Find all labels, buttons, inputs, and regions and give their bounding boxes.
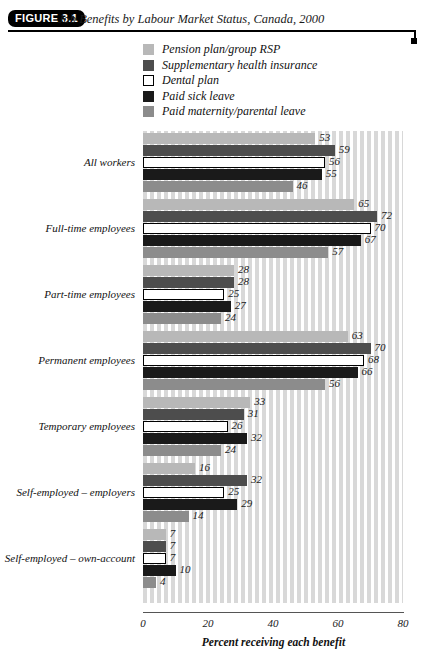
legend-item: Supplementary health insurance <box>143 58 317 74</box>
category-label: All workers <box>84 156 135 168</box>
x-axis-line <box>143 612 404 613</box>
x-tick-label: 40 <box>268 617 279 629</box>
bar-row: 65 <box>143 199 403 210</box>
bar-group: 3331263224 <box>143 397 403 457</box>
legend-swatch-icon <box>143 60 154 71</box>
bar <box>143 529 166 540</box>
header-rule <box>8 30 416 32</box>
bar-row: 26 <box>143 421 403 432</box>
bar <box>143 577 156 588</box>
bar-row: 59 <box>143 145 403 156</box>
x-tick-label: 0 <box>140 617 146 629</box>
bar-row: 28 <box>143 265 403 276</box>
bar-value-label: 46 <box>293 179 308 191</box>
legend-swatch-icon <box>143 91 154 102</box>
bar-value-label: 59 <box>335 143 350 155</box>
legend-item: Paid maternity/parental leave <box>143 104 317 120</box>
bar-value-label: 56 <box>325 377 340 389</box>
x-tick-label: 20 <box>203 617 214 629</box>
bar <box>143 541 166 552</box>
bar <box>143 463 195 474</box>
bar-group: 6370686656 <box>143 331 403 391</box>
bar <box>143 421 228 432</box>
bar-group: 1632252914 <box>143 463 403 523</box>
bar-row: 4 <box>143 577 403 588</box>
bar-row: 66 <box>143 367 403 378</box>
bar <box>143 211 377 222</box>
bar <box>143 511 189 522</box>
bar-value-label: 7 <box>166 527 176 539</box>
bar-value-label: 25 <box>224 485 239 497</box>
bar <box>143 265 234 276</box>
bar-value-label: 28 <box>234 275 249 287</box>
bar-row: 25 <box>143 289 403 300</box>
bar-row: 28 <box>143 277 403 288</box>
bar-row: 10 <box>143 565 403 576</box>
bar-row: 56 <box>143 379 403 390</box>
bar-value-label: 28 <box>234 263 249 275</box>
bar-value-label: 70 <box>371 221 386 233</box>
bar-value-label: 65 <box>354 197 369 209</box>
bar-row: 24 <box>143 313 403 324</box>
bar-row: 25 <box>143 487 403 498</box>
bar-group: 777104 <box>143 529 403 589</box>
bar <box>143 181 293 192</box>
bar <box>143 445 221 456</box>
bar-value-label: 32 <box>247 473 262 485</box>
figure-header: FIGURE 3.1 Job Benefits by Labour Market… <box>8 10 427 32</box>
category-label: Permanent employees <box>38 354 135 366</box>
bar-value-label: 53 <box>315 131 330 143</box>
bar <box>143 199 354 210</box>
bar-row: 57 <box>143 247 403 258</box>
category-label: Part-time employees <box>44 288 135 300</box>
legend-swatch-icon <box>143 106 154 117</box>
bar-row: 14 <box>143 511 403 522</box>
category-axis-labels: All workersFull-time employeesPart-time … <box>0 131 143 603</box>
bar <box>143 331 348 342</box>
bar-group: 6572706757 <box>143 199 403 259</box>
chart-legend: Pension plan/group RSPSupplementary heal… <box>143 42 317 120</box>
category-label: Full-time employees <box>46 222 136 234</box>
bar-group: 5359565546 <box>143 133 403 193</box>
category-label: Self-employed – own-account <box>5 552 135 564</box>
legend-item-label: Supplementary health insurance <box>162 58 317 73</box>
bar-value-label: 27 <box>231 299 246 311</box>
bar-row: 27 <box>143 301 403 312</box>
bar-value-label: 24 <box>221 443 236 455</box>
bar-value-label: 7 <box>166 551 176 563</box>
bar <box>143 343 371 354</box>
bar <box>143 487 224 498</box>
bar-row: 32 <box>143 475 403 486</box>
bar-value-label: 31 <box>244 407 259 419</box>
legend-item-label: Dental plan <box>162 73 219 88</box>
bar-value-label: 63 <box>348 329 363 341</box>
bar <box>143 133 315 144</box>
legend-item-label: Paid sick leave <box>162 89 235 104</box>
header-end-square-icon <box>411 38 417 44</box>
bar-value-label: 10 <box>176 563 191 575</box>
bar-value-label: 4 <box>156 575 166 587</box>
bar-value-label: 32 <box>247 431 262 443</box>
plot-area: 5359565546657270675728282527246370686656… <box>143 131 403 603</box>
figure-container: FIGURE 3.1 Job Benefits by Labour Market… <box>0 0 435 661</box>
bar <box>143 247 328 258</box>
x-tick-label: 80 <box>398 617 409 629</box>
category-label: Temporary employees <box>39 420 135 432</box>
bar-row: 63 <box>143 331 403 342</box>
bar-value-label: 33 <box>250 395 265 407</box>
legend-item-label: Paid maternity/parental leave <box>162 104 306 119</box>
bar <box>143 355 364 366</box>
bar-value-label: 55 <box>322 167 337 179</box>
x-tick-label: 60 <box>333 617 344 629</box>
bar-value-label: 56 <box>325 155 340 167</box>
legend-item: Pension plan/group RSP <box>143 42 317 58</box>
bar-row: 67 <box>143 235 403 246</box>
bar <box>143 157 325 168</box>
bar-row: 33 <box>143 397 403 408</box>
bar <box>143 223 371 234</box>
bar-value-label: 57 <box>328 245 343 257</box>
bar <box>143 289 224 300</box>
bar-value-label: 67 <box>361 233 376 245</box>
bar <box>143 379 325 390</box>
legend-swatch-icon <box>143 44 154 55</box>
